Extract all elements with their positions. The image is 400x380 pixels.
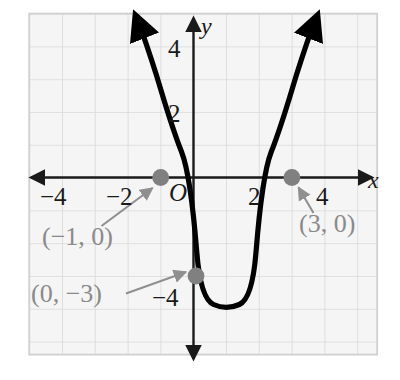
annotation-x-intercept-right: (3, 0): [299, 211, 355, 237]
origin-label: O: [169, 180, 187, 205]
point-y-intercept: [188, 268, 205, 285]
y-axis-label: y: [201, 14, 212, 38]
x-tick-label-2: 2: [248, 184, 261, 209]
point-x-intercept-right: [284, 169, 301, 186]
x-axis-label: x: [368, 168, 379, 192]
x-tick-label--2: −2: [106, 184, 133, 209]
y-tick-label-4: 4: [168, 36, 181, 61]
figure-canvas: x y O −4 −2 2 4 4 2 −4 (−1, 0) (0, −3) (…: [0, 0, 400, 380]
x-tick-label--4: −4: [40, 184, 67, 209]
annotation-x-intercept-left: (−1, 0): [42, 224, 113, 250]
y-tick-label--4: −4: [152, 285, 179, 310]
annotation-y-intercept: (0, −3): [31, 281, 102, 307]
y-tick-label-2: 2: [168, 101, 181, 126]
x-tick-label-4: 4: [316, 184, 329, 209]
point-x-intercept-left: [152, 169, 169, 186]
